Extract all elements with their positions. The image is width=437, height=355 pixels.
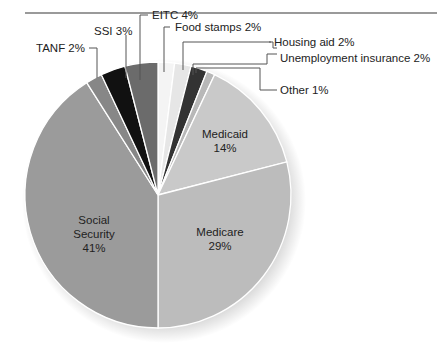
- label-medicaid-name: Medicaid: [202, 128, 248, 140]
- label-medicaid-pct: 14%: [213, 142, 236, 154]
- label-unemployment-insurance: Unemployment insurance 2%: [280, 52, 430, 64]
- pie-slices: [25, 62, 291, 328]
- label-other: Other 1%: [280, 84, 329, 96]
- pie-chart: TANF 2% SSI 3% EITC 4% Food stamps 2% Ho…: [0, 0, 437, 355]
- label-ssi: SSI 3%: [94, 25, 132, 37]
- label-social-security-name2: Security: [73, 228, 115, 240]
- label-food-stamps: Food stamps 2%: [175, 21, 261, 33]
- label-tanf: TANF 2%: [36, 42, 85, 54]
- leader-tanf: [89, 48, 97, 78]
- label-housing-aid: Housing aid 2%: [274, 36, 355, 48]
- label-social-security-pct: 41%: [82, 242, 105, 254]
- label-eitc: EITC 4%: [152, 9, 198, 21]
- label-medicare-name: Medicare: [196, 226, 243, 238]
- label-social-security-name1: Social: [78, 214, 109, 226]
- label-medicare-pct: 29%: [208, 240, 231, 252]
